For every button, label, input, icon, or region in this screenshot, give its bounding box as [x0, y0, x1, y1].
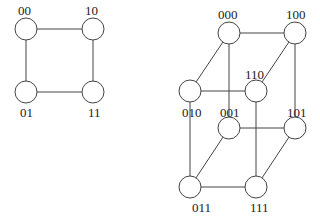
node-01: [15, 81, 37, 103]
node-101: [284, 117, 306, 139]
nodes-layer: [15, 18, 306, 198]
node-label-111: 111: [250, 200, 269, 215]
node-111: [245, 176, 267, 198]
node-100: [284, 22, 306, 44]
node-11: [82, 81, 104, 103]
node-010: [179, 80, 201, 102]
edges-layer: [26, 29, 295, 187]
hypercube-diagram: 00100111000100010110001101011111: [0, 0, 320, 224]
node-10: [82, 18, 104, 40]
node-label-10: 10: [85, 3, 98, 18]
node-00: [15, 18, 37, 40]
node-110: [245, 80, 267, 102]
node-label-110: 110: [245, 67, 264, 82]
node-label-101: 101: [287, 105, 307, 120]
node-label-01: 01: [20, 105, 33, 120]
node-label-010: 010: [182, 105, 202, 120]
node-label-001: 001: [220, 105, 240, 120]
node-label-000: 000: [218, 7, 238, 22]
node-001: [218, 117, 240, 139]
node-000: [218, 22, 240, 44]
node-label-100: 100: [286, 7, 306, 22]
node-label-11: 11: [88, 105, 101, 120]
node-label-00: 00: [18, 3, 31, 18]
node-label-011: 011: [192, 200, 211, 215]
node-011: [179, 176, 201, 198]
